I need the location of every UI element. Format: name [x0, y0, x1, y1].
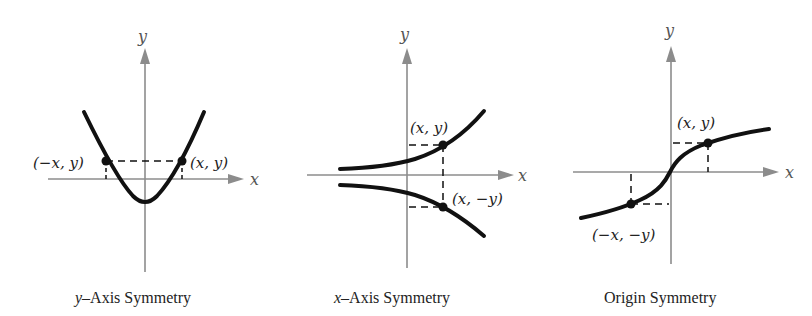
point-label-neg-x-neg-y: (−x, −y): [592, 226, 655, 244]
caption-y-axis-symmetry: y–Axis Symmetry: [73, 289, 191, 307]
x-axis-label: x: [785, 163, 794, 182]
caption-x-axis-symmetry: x–Axis Symmetry: [333, 289, 450, 307]
y-axis-label: y: [399, 25, 410, 44]
x-axis-arrow-icon: [763, 167, 779, 177]
y-axis-arrow-icon: [666, 46, 676, 62]
x-axis-arrow-icon: [228, 174, 244, 184]
point-x-y: [704, 139, 713, 148]
point-label-neg-x-y: (−x, y): [33, 154, 84, 172]
x-axis-arrow-icon: [498, 170, 514, 180]
point-x-y: [439, 141, 448, 150]
caption-origin-symmetry: Origin Symmetry: [604, 289, 716, 307]
symmetry-diagram: y x (−x, y) (x, y) y–Axis Symmetry y x (…: [0, 0, 812, 316]
panel-origin-symmetry: y x (x, y) (−x, −y) Origin Symmetry: [573, 21, 794, 307]
x-axis-label: x: [518, 166, 527, 185]
point-x-neg-y: [439, 203, 448, 212]
point-label-x-y: (x, y): [677, 114, 715, 132]
point-x-y: [178, 157, 187, 166]
y-axis-label: y: [664, 21, 675, 40]
y-axis-label: y: [137, 27, 148, 46]
y-axis-arrow-icon: [140, 48, 150, 64]
point-label-x-neg-y: (x, −y): [452, 190, 503, 208]
point-label-x-y: (x, y): [190, 154, 228, 172]
x-axis-label: x: [250, 170, 259, 189]
panel-x-axis-symmetry: y x (x, y) (x, −y) x–Axis Symmetry: [307, 25, 527, 307]
point-neg-x-y: [102, 157, 111, 166]
point-neg-x-neg-y: [627, 200, 636, 209]
parabola-curve: [84, 112, 204, 202]
y-axis-arrow-icon: [402, 48, 412, 64]
point-label-x-y: (x, y): [410, 119, 448, 137]
panel-y-axis-symmetry: y x (−x, y) (x, y) y–Axis Symmetry: [33, 27, 259, 307]
